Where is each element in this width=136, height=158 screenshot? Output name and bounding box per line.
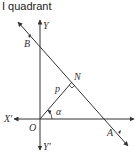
label-a: A [106, 127, 114, 138]
label-y-neg: Y' [43, 141, 52, 152]
label-p: p [54, 83, 60, 94]
label-y: Y [43, 20, 50, 31]
label-origin: O [29, 122, 36, 133]
label-alpha: α [56, 106, 62, 117]
label-x-neg: X' [3, 113, 13, 124]
label-b: B [24, 38, 30, 49]
right-angle-mark [69, 85, 75, 88]
line-ab-arrow-lower [118, 130, 121, 134]
alpha-arc [48, 110, 52, 119]
label-n: N [73, 71, 82, 82]
geometry-diagram: Y B N p α X' O A Y' [0, 0, 136, 158]
